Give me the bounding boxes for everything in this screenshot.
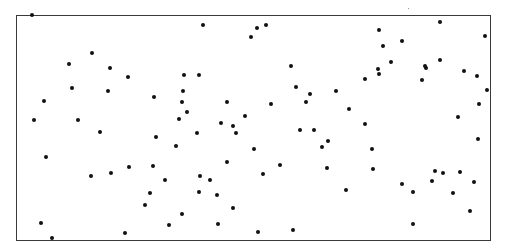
data-point xyxy=(377,72,381,76)
data-point xyxy=(30,13,34,17)
point-pattern-figure xyxy=(0,0,508,252)
data-point xyxy=(195,131,199,135)
data-point xyxy=(325,166,329,170)
data-point xyxy=(42,99,46,103)
data-point xyxy=(433,169,437,173)
data-point xyxy=(438,20,442,24)
data-point xyxy=(294,85,298,89)
data-point xyxy=(256,230,260,234)
data-point xyxy=(39,221,43,225)
data-point xyxy=(326,139,330,143)
data-point xyxy=(225,160,229,164)
data-point xyxy=(278,163,282,167)
data-point xyxy=(50,236,54,240)
data-point xyxy=(411,190,415,194)
data-point xyxy=(126,75,130,79)
data-point xyxy=(477,102,481,106)
data-point xyxy=(458,170,462,174)
data-point xyxy=(177,117,181,121)
data-point xyxy=(106,89,110,93)
data-point xyxy=(376,67,380,71)
data-point xyxy=(90,51,94,55)
data-point xyxy=(249,35,253,39)
data-point xyxy=(468,209,472,213)
data-point xyxy=(261,172,265,176)
data-point xyxy=(344,188,348,192)
data-point xyxy=(389,60,393,64)
data-point xyxy=(485,88,489,92)
data-point xyxy=(320,145,324,149)
data-point xyxy=(312,128,316,132)
data-point xyxy=(298,128,302,132)
data-point xyxy=(219,121,223,125)
data-point xyxy=(123,231,127,235)
data-point xyxy=(231,124,235,128)
data-point xyxy=(438,58,442,62)
data-point xyxy=(255,26,259,30)
data-point xyxy=(441,171,445,175)
data-point xyxy=(430,179,434,183)
data-point xyxy=(411,222,415,226)
data-point xyxy=(462,69,466,73)
data-point xyxy=(291,228,295,232)
data-point xyxy=(127,165,131,169)
data-point xyxy=(44,155,48,159)
data-point xyxy=(377,28,381,32)
data-point xyxy=(476,137,480,141)
data-point xyxy=(108,66,112,70)
data-point xyxy=(420,78,424,82)
data-point xyxy=(76,118,80,122)
data-point xyxy=(197,73,201,77)
data-point xyxy=(371,167,375,171)
data-point xyxy=(148,191,152,195)
data-point xyxy=(89,174,93,178)
data-point xyxy=(180,212,184,216)
data-point xyxy=(215,193,219,197)
data-point xyxy=(475,74,479,78)
data-point xyxy=(456,115,460,119)
data-point xyxy=(163,178,167,182)
data-point xyxy=(347,107,351,111)
data-point xyxy=(151,164,155,168)
data-point xyxy=(181,89,185,93)
data-point xyxy=(424,66,428,70)
data-point xyxy=(185,110,189,114)
data-point xyxy=(234,131,238,135)
data-point xyxy=(451,191,455,195)
data-point xyxy=(208,178,212,182)
data-point xyxy=(264,23,268,27)
data-point xyxy=(32,118,36,122)
data-point xyxy=(243,114,247,118)
data-point xyxy=(167,223,171,227)
data-point xyxy=(334,89,338,93)
data-point xyxy=(198,174,202,178)
data-point xyxy=(109,171,113,175)
data-point xyxy=(363,77,367,81)
data-point xyxy=(231,206,235,210)
data-point xyxy=(400,182,404,186)
data-point xyxy=(152,95,156,99)
data-point xyxy=(216,222,220,226)
data-point xyxy=(201,23,205,27)
data-point xyxy=(154,135,158,139)
data-point xyxy=(182,73,186,77)
data-point xyxy=(381,44,385,48)
data-point xyxy=(304,100,308,104)
data-point xyxy=(225,100,229,104)
data-point xyxy=(400,39,404,43)
data-point xyxy=(269,102,273,106)
data-point xyxy=(174,144,178,148)
data-point xyxy=(67,62,71,66)
data-point xyxy=(70,86,74,90)
scan-speck xyxy=(408,8,409,9)
data-point xyxy=(483,34,487,38)
data-point xyxy=(143,203,147,207)
data-point xyxy=(370,147,374,151)
data-point xyxy=(308,92,312,96)
data-point xyxy=(472,180,476,184)
data-point xyxy=(197,190,201,194)
data-point xyxy=(363,122,367,126)
data-point xyxy=(252,147,256,151)
data-point xyxy=(98,130,102,134)
plot-frame xyxy=(16,15,491,241)
